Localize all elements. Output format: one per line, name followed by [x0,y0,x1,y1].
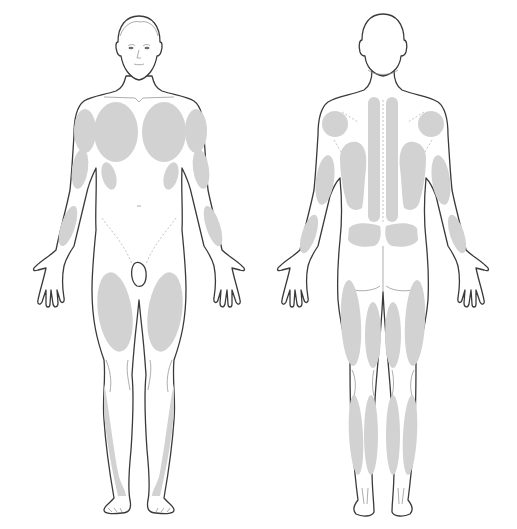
right-hamstring-medial-region [385,302,401,368]
left-lower-back-region [348,223,381,247]
genitals [132,262,147,286]
right-lower-back-region [385,223,418,247]
left-pectoral-region [94,102,138,162]
left-trapezius-region [322,111,348,137]
left-deltoid-region [74,109,96,153]
body-map-diagram [0,0,517,529]
right-gastrocnemius-medial-region [386,395,400,475]
front-figure [34,16,245,514]
back-head [359,14,407,76]
right-deltoid-region [185,109,207,153]
right-pectoral-region [142,102,186,162]
front-head [116,16,162,80]
left-gastrocnemius-medial-region [364,395,378,475]
back-figure [278,14,489,516]
left-erector-spinae-region [368,97,380,222]
right-erector-spinae-region [386,97,398,222]
left-hamstring-medial-region [365,302,381,368]
right-trapezius-region [418,111,444,137]
front-body-outline [34,76,245,514]
